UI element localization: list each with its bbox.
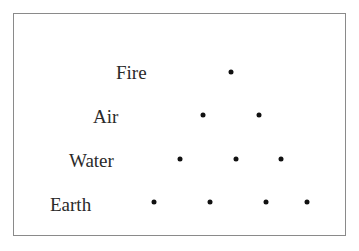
label-air: Air [93,107,118,126]
dot-icon [178,157,183,162]
dot-icon [234,157,239,162]
label-fire: Fire [116,63,147,82]
dot-icon [201,113,206,118]
dot-icon [264,200,269,205]
dot-icon [208,200,213,205]
dot-icon [305,200,310,205]
dot-icon [257,113,262,118]
label-earth: Earth [50,195,91,214]
dot-icon [279,157,284,162]
label-water: Water [69,151,114,170]
dot-icon [229,70,234,75]
dot-icon [152,200,157,205]
